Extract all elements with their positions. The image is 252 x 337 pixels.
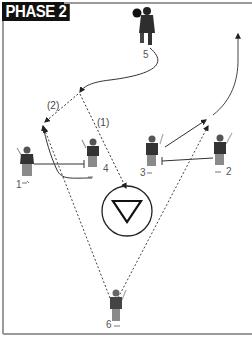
- player-6-number: 6: [106, 319, 112, 330]
- player-3: 3: [140, 134, 163, 178]
- player-1: 1: [16, 147, 34, 191]
- run-arrow-3: [165, 120, 206, 147]
- play-diagram: 5 (2) (1) 1 4 3: [0, 0, 252, 337]
- player-5-number: 5: [143, 49, 149, 60]
- goal-marker: [102, 186, 152, 236]
- triangle-icon: [113, 201, 141, 222]
- pass-6-right: [118, 126, 208, 298]
- pass-2-label: (2): [47, 100, 59, 111]
- run-arrow-top-right: [213, 34, 238, 115]
- field-border: [3, 3, 252, 334]
- player-5: 5: [133, 7, 156, 60]
- player-2-number: 2: [226, 166, 232, 177]
- pass-1-label: (1): [97, 117, 109, 128]
- player-1-number: 1: [16, 179, 22, 190]
- run-arrow-4: [43, 126, 92, 178]
- player-3-number: 3: [140, 167, 146, 178]
- player-4-number: 4: [103, 163, 109, 174]
- pass-6-left: [44, 128, 110, 298]
- player-2: 2: [214, 133, 232, 177]
- ball-icon: [133, 9, 142, 18]
- screen-line-2: [162, 158, 213, 161]
- player-6: 6: [106, 290, 126, 331]
